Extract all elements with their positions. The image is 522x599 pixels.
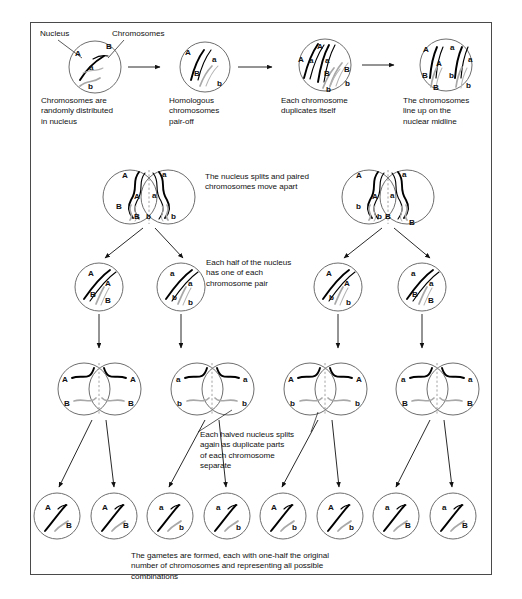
arrow-split-left-2 — [155, 228, 183, 258]
arrow-gamete-4 — [219, 420, 226, 487]
label-A: A — [326, 269, 332, 278]
label-top-left: a — [401, 375, 406, 384]
nucleus-paired: A a B b — [180, 42, 230, 92]
label-a2: a — [152, 191, 157, 200]
label-top: a — [385, 503, 390, 512]
label-B: B — [385, 212, 391, 221]
label-a: a — [450, 43, 455, 52]
label-b: b — [345, 79, 350, 88]
label-top-right: a — [468, 375, 473, 384]
label-a2: a — [468, 55, 473, 64]
label-B2: B — [344, 65, 350, 74]
gamete-2: A B — [91, 493, 137, 539]
label-top: A — [271, 503, 277, 512]
label-A: A — [356, 171, 362, 180]
label-A2: A — [344, 279, 350, 288]
label-top: a — [159, 503, 164, 512]
label-top-right: a — [243, 375, 248, 384]
label-top-left: a — [176, 375, 181, 384]
label-b: b — [449, 71, 454, 80]
label-b: b — [146, 212, 151, 221]
label-A2: A — [372, 192, 378, 201]
label-bottom: B — [462, 521, 468, 530]
dividing-nucleus-2: a a b b — [171, 363, 254, 415]
dividing-nucleus-4: a a B B — [396, 363, 479, 415]
label-bottom: B — [405, 521, 411, 530]
gamete-4: a b — [204, 493, 250, 539]
label-b2: b — [326, 85, 331, 94]
meiosis-diagram: Chromosomes are randomly distributed in … — [0, 0, 522, 599]
label-top: A — [45, 503, 51, 512]
label-bottom: B — [123, 521, 129, 530]
label-bottom: b — [236, 523, 241, 532]
label-B: B — [116, 202, 122, 211]
label-a: a — [309, 56, 314, 65]
arrow-gamete-3 — [169, 420, 205, 487]
label-b2: b — [188, 298, 193, 307]
split-nucleus-left: A A a a B B b b — [103, 170, 195, 224]
arrow-split-left-1 — [105, 228, 143, 258]
label-B2: B — [409, 218, 415, 227]
gamete-7: a B — [373, 493, 419, 539]
label-b2: b — [466, 81, 471, 90]
label-bot-right: B — [467, 399, 473, 408]
label-b: b — [172, 293, 177, 302]
arrow-gamete-1 — [59, 420, 92, 487]
label-B2: B — [428, 296, 434, 305]
label-a2: a — [188, 279, 193, 288]
label-b2: b — [171, 212, 176, 221]
arrow-gamete-5 — [282, 420, 318, 487]
label-top-right: A — [130, 375, 136, 384]
label-A: A — [298, 55, 304, 64]
label-A: A — [75, 49, 81, 58]
callout-chromosomes-label: Chromosomes — [112, 29, 165, 38]
gamete-8: a B — [430, 493, 476, 539]
label-bottom: b — [292, 523, 297, 532]
label-B: B — [422, 71, 428, 80]
label-top: a — [442, 503, 447, 512]
dividing-nucleus-3: A A b b — [284, 363, 367, 415]
label-top-left: A — [62, 375, 68, 384]
label-a: a — [402, 170, 407, 179]
dividing-nucleus-1: A A B B — [58, 363, 141, 415]
label-bot-right: b — [355, 399, 360, 408]
label-b: b — [356, 202, 361, 211]
label-B2: B — [105, 296, 111, 305]
label-A: A — [423, 45, 429, 54]
label-top: A — [102, 503, 108, 512]
label-B: B — [412, 290, 418, 299]
split-nucleus-right: A A a a b b B B — [342, 170, 434, 227]
label-bot-left: b — [177, 399, 182, 408]
label-bottom: B — [66, 521, 72, 530]
label-a: a — [212, 55, 217, 64]
arrow-gamete-6 — [332, 420, 339, 487]
label-top-right: A — [356, 375, 362, 384]
label-b: b — [217, 79, 222, 88]
gamete-6: A b — [317, 493, 363, 539]
label-B2: B — [433, 83, 439, 92]
gamete-5: A b — [260, 493, 306, 539]
label-bot-left: B — [402, 399, 408, 408]
label-A2: A — [134, 192, 140, 201]
label-bot-left: b — [290, 399, 295, 408]
label-top-left: A — [288, 375, 294, 384]
arrow-gamete-7 — [396, 420, 430, 487]
leader-halved-left — [198, 410, 232, 432]
callout-nucleus-label: Nucleus — [40, 29, 69, 38]
arrow-gamete-2 — [106, 420, 114, 487]
arrow-split-right-1 — [344, 228, 382, 258]
half-nucleus-3: A A b b — [314, 263, 362, 311]
label-A2: A — [317, 42, 323, 51]
label-a2: a — [429, 279, 434, 288]
label-top: a — [216, 503, 221, 512]
nucleus-midline: A A a a B B b b — [420, 39, 473, 92]
label-A2: A — [105, 279, 111, 288]
label-b2: b — [346, 298, 351, 307]
label-A: A — [88, 269, 94, 278]
label-bot-right: b — [242, 399, 247, 408]
half-nucleus-1: A A B B — [75, 263, 123, 311]
label-b: b — [329, 293, 334, 302]
label-B: B — [324, 69, 330, 78]
label-a: a — [411, 269, 416, 278]
label-a2: a — [390, 191, 395, 200]
